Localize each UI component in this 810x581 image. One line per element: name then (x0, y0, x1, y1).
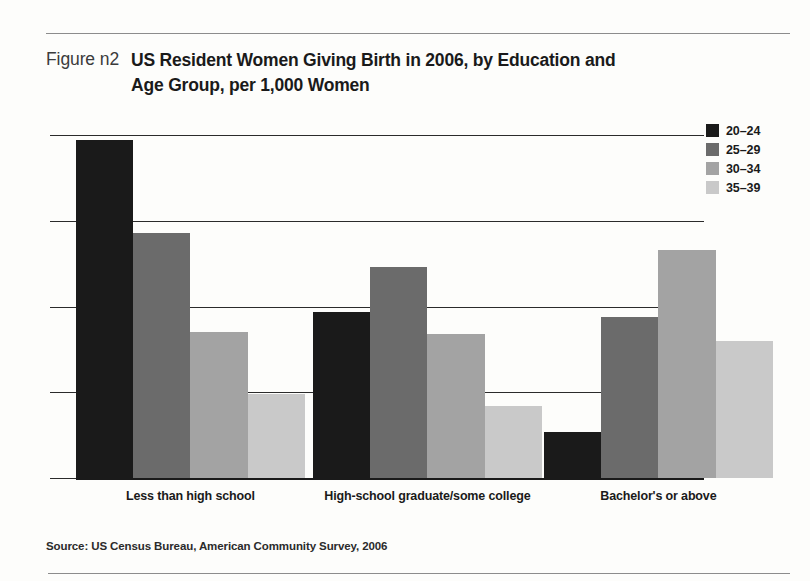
figure-container: Figure n2 US Resident Women Giving Birth… (0, 0, 810, 581)
top-divider-rule (46, 33, 790, 34)
figure-title: US Resident Women Giving Birth in 2006, … (131, 48, 636, 98)
legend-item: 25–29 (706, 143, 760, 156)
source-note: Source: US Census Bureau, American Commu… (46, 540, 387, 552)
legend-swatch-icon (706, 181, 719, 194)
legend-item: 30–34 (706, 162, 760, 175)
legend-label: 25–29 (726, 143, 760, 157)
legend-item: 20–24 (706, 124, 760, 137)
bottom-divider-rule (48, 573, 790, 574)
legend-swatch-icon (706, 124, 719, 137)
bars-layer (76, 135, 704, 478)
bar-group (313, 135, 542, 478)
legend-label: 20–24 (726, 124, 760, 138)
bar (544, 432, 601, 478)
bar (133, 233, 190, 478)
bar (601, 317, 658, 478)
figure-header: Figure n2 US Resident Women Giving Birth… (46, 48, 726, 98)
figure-number-label: Figure n2 (46, 48, 119, 70)
gridline-0 (76, 478, 704, 480)
chart-legend: 20–2425–2930–3435–39 (706, 124, 760, 200)
y-tick-mark-0 (50, 478, 76, 479)
legend-swatch-icon (706, 143, 719, 156)
legend-label: 35–39 (726, 181, 760, 195)
legend-label: 30–34 (726, 162, 760, 176)
bar (658, 250, 715, 478)
legend-swatch-icon (706, 162, 719, 175)
bar (485, 406, 542, 478)
bar (427, 334, 484, 478)
x-category-label: Bachelor's or above (498, 489, 810, 503)
bar (190, 332, 247, 478)
bar (248, 394, 305, 478)
bar (313, 312, 370, 478)
y-tick-mark-200 (50, 135, 76, 136)
y-tick-mark-50 (50, 392, 76, 393)
y-tick-mark-150 (50, 221, 76, 222)
bar (716, 341, 773, 478)
legend-item: 35–39 (706, 181, 760, 194)
plot-area: 050100150200 (76, 135, 704, 478)
bar (370, 267, 427, 478)
bar-group (76, 135, 305, 478)
y-tick-mark-100 (50, 307, 76, 308)
bar (76, 140, 133, 478)
